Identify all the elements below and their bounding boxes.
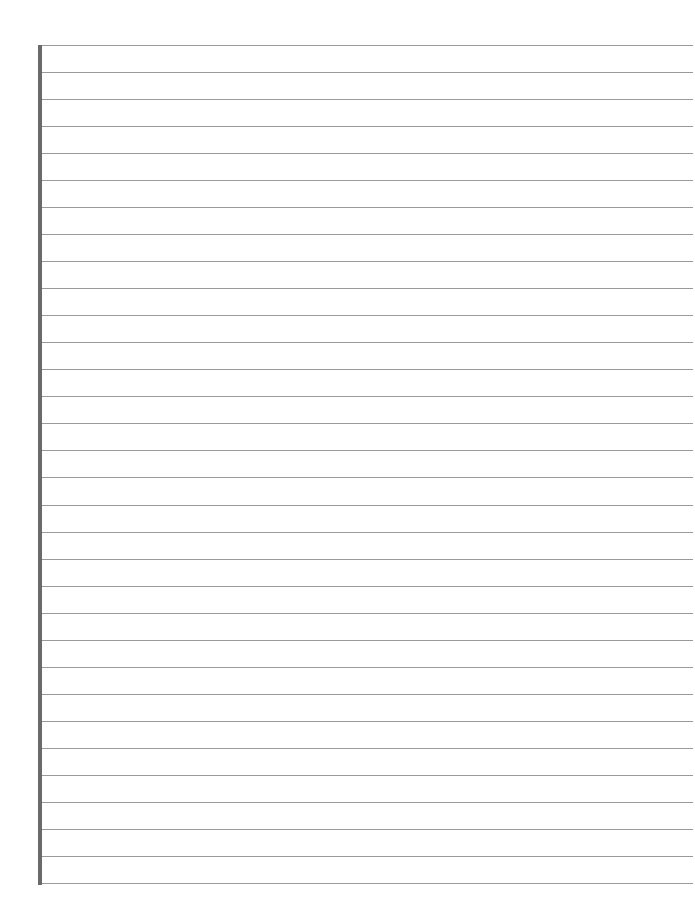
ruled-line bbox=[42, 261, 693, 262]
ruled-line bbox=[42, 315, 693, 316]
ruled-line bbox=[42, 450, 693, 451]
ruled-line bbox=[42, 748, 693, 749]
ruled-line bbox=[42, 288, 693, 289]
ruled-line bbox=[42, 721, 693, 722]
ruled-line bbox=[42, 505, 693, 506]
ruled-line bbox=[42, 667, 693, 668]
ruled-line bbox=[42, 477, 693, 478]
ruled-line bbox=[42, 99, 693, 100]
ruled-line bbox=[42, 802, 693, 803]
ruled-line bbox=[42, 640, 693, 641]
ruled-line bbox=[42, 856, 693, 857]
ruled-line bbox=[42, 180, 693, 181]
ruled-line bbox=[42, 207, 693, 208]
ruled-line bbox=[42, 369, 693, 370]
ruled-line bbox=[42, 532, 693, 533]
ruled-line bbox=[42, 559, 693, 560]
ruled-line bbox=[42, 126, 693, 127]
ruled-line bbox=[42, 234, 693, 235]
ruled-line bbox=[42, 45, 693, 46]
ruled-line bbox=[42, 342, 693, 343]
ruled-line bbox=[42, 613, 693, 614]
ruled-line bbox=[42, 883, 693, 884]
ruled-line bbox=[42, 153, 693, 154]
ruled-line bbox=[42, 396, 693, 397]
ruled-line bbox=[42, 586, 693, 587]
ruled-line bbox=[42, 829, 693, 830]
left-margin-bar bbox=[38, 45, 42, 885]
ruled-line bbox=[42, 72, 693, 73]
ruled-line bbox=[42, 775, 693, 776]
lined-paper bbox=[0, 0, 695, 910]
ruled-line bbox=[42, 694, 693, 695]
ruled-line bbox=[42, 423, 693, 424]
